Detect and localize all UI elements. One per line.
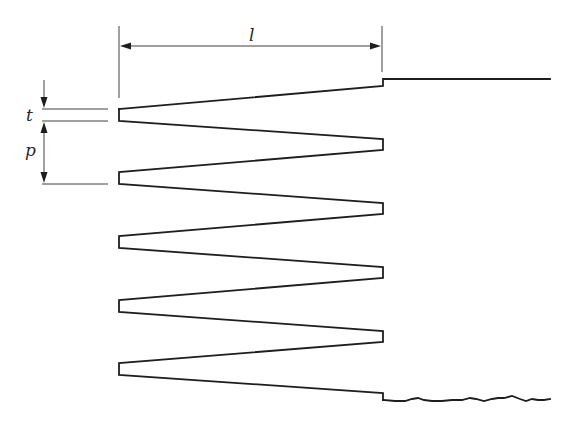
thickness-label: t — [26, 105, 33, 125]
arrow-down-icon — [41, 172, 48, 183]
arrow-down-icon — [41, 97, 48, 108]
length-dimension: l — [119, 25, 382, 98]
zigzag-teeth — [119, 109, 383, 400]
arrow-right-icon — [370, 43, 381, 50]
top-edge — [119, 79, 550, 109]
profile-outline — [119, 79, 550, 401]
zigzag-profile-diagram: l t p — [0, 0, 582, 421]
length-label: l — [249, 25, 254, 45]
pitch-label: p — [25, 140, 36, 160]
bottom-broken-edge — [383, 396, 550, 401]
arrow-up-icon — [41, 122, 48, 133]
thickness-pitch-dimensions: t p — [25, 80, 108, 184]
arrow-left-icon — [120, 43, 131, 50]
